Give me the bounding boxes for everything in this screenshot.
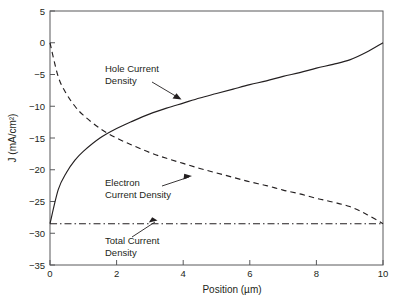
x-axis-title: Position (µm) xyxy=(202,284,261,295)
annotation-label-line2: Density xyxy=(105,75,137,86)
annotation-label-line2: Current Density xyxy=(105,189,171,200)
y-tick-label: −35 xyxy=(29,260,45,271)
y-tick-label: 5 xyxy=(40,6,45,17)
x-tick-label: 4 xyxy=(181,268,186,279)
y-tick-label: −25 xyxy=(29,196,45,207)
x-tick-label: 10 xyxy=(378,268,389,279)
y-tick-label: 0 xyxy=(40,37,45,48)
x-tick-label: 6 xyxy=(247,268,252,279)
x-tick-label: 8 xyxy=(314,268,319,279)
annotation-label-line1: Hole Current xyxy=(105,63,159,74)
y-tick-label: −15 xyxy=(29,133,45,144)
annotation-label-line2: Density xyxy=(105,247,137,258)
x-tick-label: 0 xyxy=(47,268,52,279)
x-tick-label: 2 xyxy=(114,268,119,279)
y-tick-label: −30 xyxy=(29,228,45,239)
y-tick-label: −10 xyxy=(29,101,45,112)
current-density-chart: 5 0 −5 −10 −15 −20 −25 −30 −35 0 2 4 6 8… xyxy=(0,0,410,302)
y-axis-title: J (mA/cm²) xyxy=(7,114,18,163)
chart-background xyxy=(0,0,410,302)
y-tick-label: −20 xyxy=(29,164,45,175)
annotation-label-line1: Electron xyxy=(105,177,140,188)
y-tick-label: −5 xyxy=(34,69,45,80)
